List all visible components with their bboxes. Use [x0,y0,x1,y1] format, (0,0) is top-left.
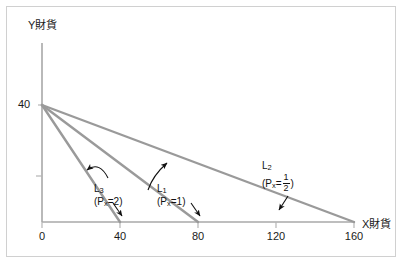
arrow-xintercept-80 [191,203,200,216]
budget-lines-group [42,105,354,222]
annotation-L3-subscript: 3 [100,186,104,195]
annotation-L2-fraction: 12 [283,173,290,194]
budget-line-L2 [42,105,354,222]
annotation-L2-numerator: 1 [283,173,290,182]
annotation-L3-line1: L3 [94,183,122,196]
annotation-L2-close: ) [291,178,294,189]
annotation-L3-open: (P [94,196,104,207]
annotation-L2-open: (P [262,178,272,189]
y-axis-title: Y財貨 [28,20,57,31]
annotation-L3-rest: =2) [108,196,123,207]
annotation-L2-subscript: 2 [268,163,272,172]
annotation-L2-line1: L2 [262,160,294,173]
arrow-to-L2 [279,196,288,210]
annotation-L1-line1: L1 [157,183,185,196]
annotation-L1-line2: (Px=1) [157,196,185,209]
chart-canvas [0,0,404,265]
x-tick-label-0: 0 [34,231,50,242]
x-tick-label-80: 80 [188,231,208,242]
annotation-L1-subscript: 1 [163,186,167,195]
annotation-L1-open: (P [157,196,167,207]
annotation-L3: L3 (Px=2) [94,183,122,208]
annotation-L3-line2: (Px=2) [94,196,122,209]
annotation-L2-denominator: 2 [283,184,290,193]
budget-line-chart-figure: Y財貨 X財貨 40 0 40 80 120 160 L3 (Px=2) L1 … [0,0,404,265]
annotation-L2-line2: (Px=12) [262,173,294,194]
axes-group [42,43,355,222]
y-tick-label-40: 40 [18,99,30,110]
annotation-L1-rest: =1) [171,196,186,207]
annotation-L2: L2 (Px=12) [262,160,294,194]
annotation-L2-equals: = [276,178,282,189]
x-tick-label-40: 40 [110,231,130,242]
annotation-L1: L1 (Px=1) [157,183,185,208]
x-axis-title: X財貨 [362,219,391,230]
x-tick-label-160: 160 [341,231,367,242]
y-axis-ticks [36,105,42,176]
x-tick-label-120: 120 [263,231,289,242]
